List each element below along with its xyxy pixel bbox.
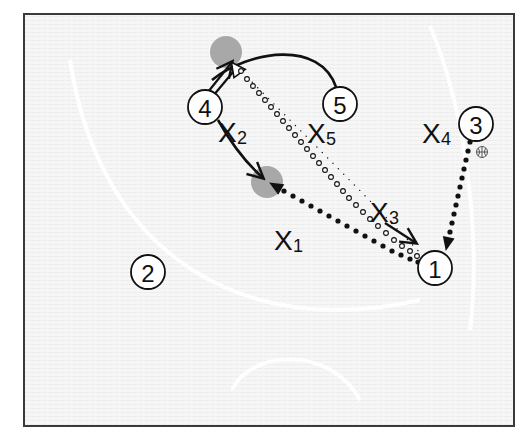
- player-1-label: 1: [428, 256, 441, 283]
- defender-x5-letter: X: [307, 118, 326, 149]
- defender-x5-number: 5: [326, 129, 336, 149]
- player-5-label: 5: [333, 92, 346, 119]
- defender-x2-number: 2: [237, 128, 247, 148]
- player-1: 1: [418, 251, 452, 285]
- player-4: 4: [188, 90, 222, 124]
- court-frame: [24, 14, 514, 426]
- basketball-icon: [477, 147, 488, 158]
- defender-x1-letter: X: [274, 225, 293, 256]
- defender-x3-letter: X: [370, 197, 389, 228]
- player-2: 2: [131, 255, 165, 289]
- play-diagram: 1 2 3 4 5 X 1 X 2 X 3 X 4 X 5: [0, 0, 526, 435]
- defender-x3-number: 3: [389, 208, 399, 228]
- defender-x2-letter: X: [218, 117, 237, 148]
- defender-x4-letter: X: [422, 118, 441, 149]
- player-3-label: 3: [469, 112, 482, 139]
- player-2-label: 2: [141, 260, 154, 287]
- defender-x4-number: 4: [441, 129, 451, 149]
- player-3: 3: [459, 107, 493, 141]
- player-4-label: 4: [198, 95, 211, 122]
- screen-spot-top: [210, 36, 242, 68]
- player-5: 5: [323, 87, 357, 121]
- defender-x1-number: 1: [293, 236, 303, 256]
